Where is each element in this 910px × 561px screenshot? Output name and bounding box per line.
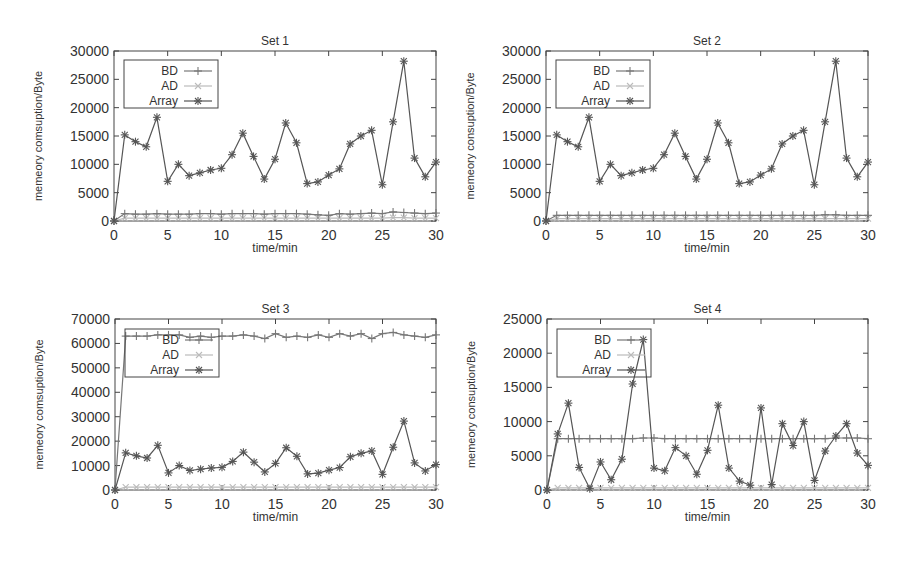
y-axis-label: memeory consuption/Byte xyxy=(465,341,477,468)
data-point-marker xyxy=(843,434,851,442)
data-point-marker xyxy=(618,455,626,463)
x-tick-label: 0 xyxy=(543,496,551,512)
legend-marker xyxy=(627,366,635,374)
legend-label: BD xyxy=(594,333,611,347)
data-point-marker xyxy=(661,467,669,475)
data-point-marker xyxy=(693,470,701,478)
data-point-marker xyxy=(800,418,808,426)
data-point-marker xyxy=(554,430,562,438)
data-point-marker xyxy=(607,476,615,484)
data-point-marker xyxy=(682,452,690,460)
data-point-marker xyxy=(714,435,722,443)
data-point-marker xyxy=(575,463,583,471)
data-point-marker xyxy=(597,458,605,466)
data-point-marker xyxy=(650,464,658,472)
y-tick-label: 20000 xyxy=(503,345,542,361)
x-tick-label: 10 xyxy=(646,496,662,512)
data-point-marker xyxy=(746,435,754,443)
x-tick-label: 25 xyxy=(807,496,823,512)
data-point-marker xyxy=(564,399,572,407)
data-point-marker xyxy=(607,435,615,443)
data-point-marker xyxy=(704,446,712,454)
data-point-marker xyxy=(639,434,647,442)
y-tick-label: 0 xyxy=(534,482,542,498)
data-point-marker xyxy=(543,486,551,494)
data-point-marker xyxy=(671,444,679,452)
x-tick-label: 30 xyxy=(860,496,876,512)
data-point-marker xyxy=(832,432,840,440)
legend-label: Array xyxy=(582,363,611,377)
chart-title: Set 4 xyxy=(693,302,721,316)
y-tick-label: 15000 xyxy=(503,379,542,395)
data-point-marker xyxy=(575,435,583,443)
legend-marker xyxy=(627,336,635,344)
y-tick-label: 10000 xyxy=(503,414,542,430)
series-array xyxy=(543,336,872,494)
data-point-marker xyxy=(661,435,669,443)
chart-svg: Set 4051015202530time/min050001000015000… xyxy=(0,0,910,561)
data-point-marker xyxy=(768,435,776,443)
data-point-marker xyxy=(853,449,861,457)
data-point-marker xyxy=(821,447,829,455)
data-point-marker xyxy=(725,464,733,472)
data-point-marker xyxy=(597,435,605,443)
data-point-marker xyxy=(843,420,851,428)
y-axis: 0500010000150002000025000 xyxy=(503,311,868,498)
data-point-marker xyxy=(811,476,819,484)
data-point-marker xyxy=(757,404,765,412)
data-point-marker xyxy=(629,380,637,388)
data-point-marker xyxy=(586,485,594,493)
y-tick-label: 25000 xyxy=(503,311,542,327)
data-point-marker xyxy=(714,401,722,409)
y-tick-label: 5000 xyxy=(511,448,542,464)
x-tick-label: 5 xyxy=(597,496,605,512)
data-point-marker xyxy=(768,481,776,489)
legend: BDADArray xyxy=(557,329,651,377)
chart-set-4: Set 4051015202530time/min050001000015000… xyxy=(0,0,910,561)
data-point-marker xyxy=(864,435,872,443)
data-point-marker xyxy=(736,435,744,443)
x-axis-label: time/min xyxy=(685,510,730,524)
data-point-marker xyxy=(811,435,819,443)
data-point-marker xyxy=(864,461,872,469)
data-point-marker xyxy=(757,435,765,443)
data-point-marker xyxy=(671,435,679,443)
data-point-marker xyxy=(821,435,829,443)
data-point-marker xyxy=(778,420,786,428)
legend-label: AD xyxy=(594,348,611,362)
data-point-marker xyxy=(586,435,594,443)
data-point-marker xyxy=(789,442,797,450)
data-point-marker xyxy=(693,435,701,443)
x-tick-label: 20 xyxy=(753,496,769,512)
data-point-marker xyxy=(629,435,637,443)
data-point-marker xyxy=(736,477,744,485)
x-axis: 051015202530 xyxy=(543,319,876,512)
data-point-marker xyxy=(682,435,690,443)
data-point-marker xyxy=(853,434,861,442)
data-point-marker xyxy=(725,435,733,443)
data-point-marker xyxy=(564,435,572,443)
data-point-marker xyxy=(746,481,754,489)
